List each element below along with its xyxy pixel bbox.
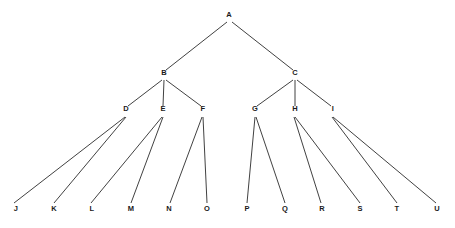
tree-edge-i-t bbox=[332, 117, 397, 203]
tree-node-s[interactable]: S bbox=[357, 204, 362, 213]
tree-node-o[interactable]: O bbox=[204, 204, 210, 213]
tree-diagram: ABCDEFGHIJKLMNOPQRSTU bbox=[0, 0, 455, 228]
tree-diagram-canvas: ABCDEFGHIJKLMNOPQRSTU bbox=[0, 0, 455, 228]
tree-node-a[interactable]: A bbox=[226, 10, 232, 19]
tree-edge-h-s bbox=[295, 117, 360, 203]
tree-edge-f-o bbox=[203, 117, 207, 203]
tree-edge-e-m bbox=[131, 117, 163, 203]
tree-edge-b-e bbox=[163, 80, 164, 106]
tree-node-q[interactable]: Q bbox=[282, 204, 288, 213]
tree-edge-g-p bbox=[247, 117, 255, 203]
tree-edge-h-r bbox=[294, 117, 321, 203]
tree-node-k[interactable]: K bbox=[51, 204, 57, 213]
tree-node-h[interactable]: H bbox=[292, 104, 298, 113]
tree-edge-g-q bbox=[256, 117, 285, 203]
tree-edge-i-u bbox=[333, 117, 436, 203]
tree-node-u[interactable]: U bbox=[434, 204, 440, 213]
tree-node-m[interactable]: M bbox=[128, 204, 134, 213]
tree-edge-e-l bbox=[91, 117, 162, 203]
tree-edge-a-b bbox=[166, 22, 227, 70]
tree-node-p[interactable]: P bbox=[244, 204, 249, 213]
tree-node-d[interactable]: D bbox=[123, 104, 129, 113]
edges-layer bbox=[14, 22, 436, 203]
tree-edge-b-d bbox=[128, 80, 162, 106]
tree-node-b[interactable]: B bbox=[161, 68, 167, 77]
tree-edge-d-j bbox=[14, 117, 125, 203]
tree-node-g[interactable]: G bbox=[252, 104, 258, 113]
tree-edge-c-i bbox=[297, 80, 331, 106]
nodes-layer: ABCDEFGHIJKLMNOPQRSTU bbox=[14, 10, 440, 213]
tree-edge-f-n bbox=[170, 117, 202, 203]
tree-node-j[interactable]: J bbox=[14, 204, 18, 213]
tree-edge-d-k bbox=[54, 117, 126, 203]
tree-edge-c-g bbox=[257, 80, 293, 106]
tree-edge-a-c bbox=[232, 22, 293, 70]
tree-node-n[interactable]: N bbox=[166, 204, 172, 213]
tree-node-c[interactable]: C bbox=[292, 68, 298, 77]
tree-node-f[interactable]: F bbox=[201, 104, 206, 113]
tree-node-t[interactable]: T bbox=[395, 204, 400, 213]
tree-edge-b-f bbox=[166, 80, 201, 106]
tree-node-l[interactable]: L bbox=[90, 204, 95, 213]
tree-node-i[interactable]: I bbox=[332, 104, 334, 113]
tree-node-e[interactable]: E bbox=[160, 104, 165, 113]
tree-node-r[interactable]: R bbox=[319, 204, 325, 213]
